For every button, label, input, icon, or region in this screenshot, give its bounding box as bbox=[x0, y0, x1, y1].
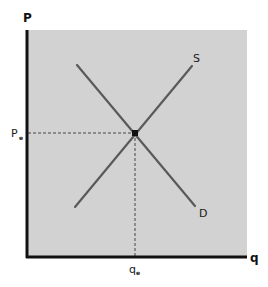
demand-label: D bbox=[199, 207, 207, 220]
supply-demand-diagram: P q S D P e q e bbox=[0, 0, 268, 287]
supply-label: S bbox=[193, 52, 200, 65]
y-axis-label: P bbox=[23, 11, 32, 25]
equilibrium-quantity-label: q bbox=[129, 263, 136, 276]
equilibrium-point bbox=[132, 130, 138, 136]
plot-area bbox=[28, 30, 247, 256]
equilibrium-price-label: P bbox=[11, 127, 18, 140]
x-axis-label: q bbox=[250, 251, 259, 265]
equilibrium-price-subscript: e bbox=[19, 134, 23, 141]
equilibrium-quantity-subscript: e bbox=[136, 269, 140, 276]
